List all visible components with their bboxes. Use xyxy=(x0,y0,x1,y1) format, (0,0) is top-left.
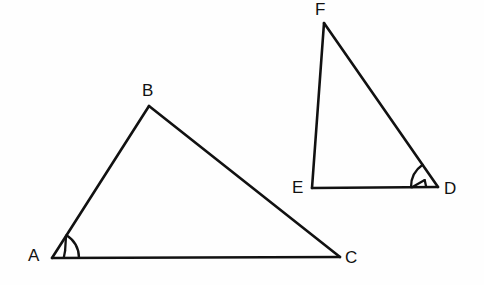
angle-tick-a-barb xyxy=(64,251,65,258)
angle-arc-a xyxy=(67,235,80,258)
edge-ed xyxy=(312,187,438,188)
edge-ca xyxy=(52,257,340,258)
angle-tick-d-barb xyxy=(425,180,427,187)
vertex-label-a: A xyxy=(28,247,39,264)
edge-fe xyxy=(312,23,324,188)
vertex-label-c: C xyxy=(345,249,357,266)
geometry-figure: A B C D E F xyxy=(0,0,484,285)
angle-tick-a xyxy=(65,236,66,251)
vertex-label-b: B xyxy=(142,82,153,99)
vertex-label-d: D xyxy=(444,180,456,197)
triangle-def xyxy=(312,23,438,188)
edge-df xyxy=(324,23,438,187)
vertex-label-f: F xyxy=(315,1,325,18)
vertex-label-e: E xyxy=(292,179,303,196)
triangles-canvas xyxy=(0,0,484,285)
angle-mark-a xyxy=(64,235,79,258)
